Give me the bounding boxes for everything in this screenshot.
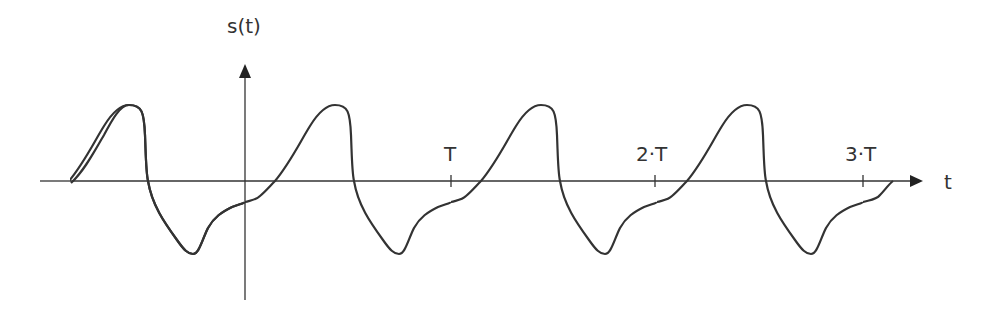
tick-label-2T: 2·T — [636, 142, 667, 166]
y-axis-label: s(t) — [227, 14, 261, 38]
x-axis-label: t — [944, 170, 952, 194]
signal-curve — [39, 105, 893, 254]
signal-diagram — [0, 0, 989, 311]
tick-label-T: T — [444, 142, 456, 166]
s-axis-arrow-icon — [239, 64, 251, 78]
t-axis-arrow-icon — [910, 175, 923, 187]
axes — [40, 78, 910, 300]
tick-label-3T: 3·T — [845, 142, 876, 166]
